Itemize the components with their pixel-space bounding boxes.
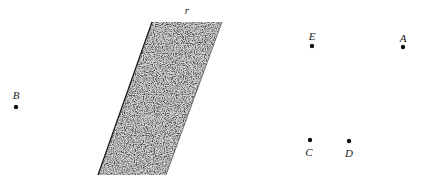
strip-label-r: r xyxy=(185,4,190,16)
point-dot-icon xyxy=(308,138,312,142)
point-dot-icon xyxy=(310,44,314,48)
strip-region-r: r xyxy=(98,4,222,175)
diagram-canvas: r BEACD xyxy=(0,0,422,187)
point-dot-icon xyxy=(401,45,405,49)
point-a: A xyxy=(399,32,407,49)
point-c: C xyxy=(305,138,313,158)
strip-shade xyxy=(98,22,222,175)
point-label: B xyxy=(13,89,20,101)
point-d: D xyxy=(344,139,353,159)
point-dot-icon xyxy=(14,105,18,109)
point-label: A xyxy=(399,32,407,44)
point-b: B xyxy=(13,89,20,109)
point-label: C xyxy=(305,146,313,158)
point-dot-icon xyxy=(347,139,351,143)
point-label: E xyxy=(308,30,316,42)
point-label: D xyxy=(344,147,353,159)
point-e: E xyxy=(308,30,316,48)
